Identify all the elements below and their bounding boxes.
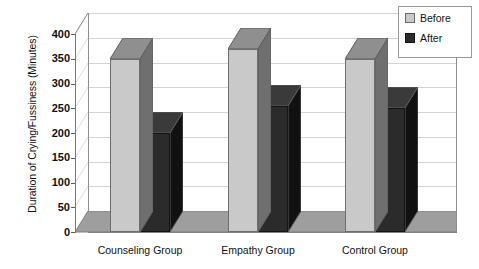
legend-swatch-after-icon — [405, 33, 415, 43]
x-axis-label: Counseling Group — [86, 244, 194, 256]
legend-swatch-before-icon — [405, 13, 415, 23]
bar-before-empathy-group — [228, 28, 258, 232]
legend-label-before: Before — [420, 13, 451, 24]
bar-before-counseling-group — [110, 38, 140, 232]
chart-legend: Before After — [398, 6, 472, 58]
legend-label-after: After — [420, 33, 442, 44]
legend-item-before: Before — [405, 13, 471, 24]
bar-front-face — [228, 49, 258, 232]
bar-front-face — [110, 59, 140, 232]
x-axis-label: Empathy Group — [204, 244, 312, 256]
bar-front-face — [345, 59, 375, 232]
legend-item-after: After — [405, 33, 471, 44]
x-axis-label: Control Group — [321, 244, 429, 256]
bar-before-control-group — [345, 38, 375, 232]
bar-chart: Duration of Crying/Fussiness (Minutes) 0… — [0, 0, 479, 269]
